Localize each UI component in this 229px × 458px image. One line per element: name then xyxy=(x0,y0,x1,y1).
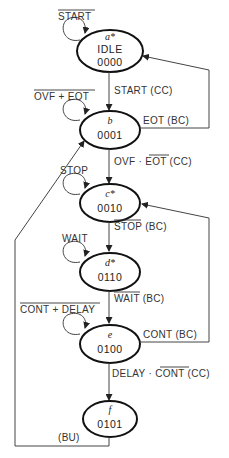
self-loop-c xyxy=(63,173,85,194)
self-loop-d-label: WAIT xyxy=(62,233,88,244)
self-loop-d xyxy=(63,241,85,262)
transition-d-e-label: WAIT (BC) xyxy=(114,293,165,304)
state-c-id: c* xyxy=(105,188,114,199)
state-c: STOP c* 0010 xyxy=(60,165,140,222)
state-b: OVF + EOT b 0001 xyxy=(34,90,140,149)
self-loop-c-label: STOP xyxy=(60,165,88,176)
transition-a-b-label: START (CC) xyxy=(114,85,173,96)
state-b-code: 0001 xyxy=(97,129,122,141)
transition-c-d-label: STOP (BC) xyxy=(114,221,167,232)
self-loop-b-label: OVF + EOT xyxy=(34,91,89,102)
state-e-code: 0100 xyxy=(97,343,122,355)
state-a-name: IDLE xyxy=(97,43,122,55)
state-e: CONT + DELAY e 0100 xyxy=(20,303,140,363)
transition-b-c-label: OVF · EOT (CC) xyxy=(114,156,192,167)
state-f-code: 0101 xyxy=(97,418,122,430)
state-a-id: a* xyxy=(105,31,115,42)
self-loop-e-label: CONT + DELAY xyxy=(20,304,95,315)
transition-b-a-label: EOT (BC) xyxy=(143,115,189,126)
transition-e-c-label: CONT (BC) xyxy=(143,329,197,340)
transition-e-f-label: DELAY · CONT (CC) xyxy=(112,368,210,379)
state-c-code: 0010 xyxy=(97,202,122,214)
self-loop-e xyxy=(63,313,85,334)
state-b-id: b xyxy=(108,115,113,126)
state-a-code: 0000 xyxy=(97,56,122,68)
self-loop-a-label: START xyxy=(58,11,91,22)
state-a: START a* IDLE 0000 xyxy=(58,10,143,72)
self-loop-b xyxy=(63,99,85,120)
state-d-code: 0110 xyxy=(98,271,123,283)
transition-f-b-label: (BU) xyxy=(58,432,80,443)
state-d: WAIT d* 0110 xyxy=(62,233,140,291)
state-e-id: e xyxy=(108,329,113,340)
state-d-id: d* xyxy=(105,257,115,268)
state-diagram: START a* IDLE 0000 START (CC) OVF + EOT … xyxy=(0,0,229,458)
state-f: f 0101 xyxy=(83,401,137,437)
